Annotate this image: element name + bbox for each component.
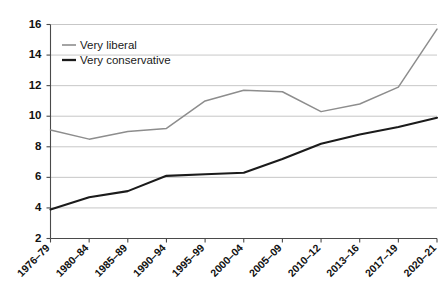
y-tick-label: 10 [29,109,42,121]
x-tick-label: 2005–09 [246,241,284,279]
x-axis-ticks-group: 1976–791980–841985–891990–941995–992000–… [15,239,439,279]
x-tick-label: 2013–16 [324,241,362,279]
y-tick-label: 4 [35,201,42,213]
y-tick-label: 14 [29,48,42,60]
y-axis-ticks-group: 246810121416 [29,18,51,244]
legend-label-very-conservative: Very conservative [80,54,171,66]
x-tick-label: 2020–21 [401,241,439,279]
x-tick-label: 2000–04 [208,241,246,279]
y-tick-label: 16 [29,18,42,30]
y-tick-label: 6 [35,170,41,182]
y-tick-label: 2 [35,232,41,244]
gridlines-group [51,25,438,208]
legend-label-very-liberal: Very liberal [80,39,137,51]
x-tick-label: 1995–99 [169,241,207,279]
x-tick-label: 1980–84 [53,241,91,279]
legend: Very liberal Very conservative [62,39,171,66]
y-tick-label: 8 [35,140,42,152]
x-tick-label: 1976–79 [15,241,53,279]
x-tick-label: 2017–19 [362,241,400,279]
chart-canvas: 246810121416 1976–791980–841985–891990–9… [0,0,448,298]
x-tick-label: 1990–94 [130,241,168,279]
x-tick-label: 1985–89 [92,241,130,279]
series-line-very-conservative [51,118,438,210]
x-tick-label: 2010–12 [285,241,323,279]
y-tick-label: 12 [29,79,42,91]
line-chart: 246810121416 1976–791980–841985–891990–9… [0,0,448,298]
